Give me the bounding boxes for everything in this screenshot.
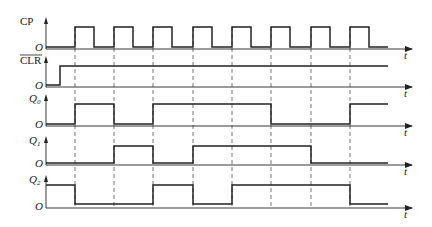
waveform (46, 146, 388, 163)
signal-label: Q2 (29, 173, 41, 187)
waveform (46, 27, 388, 47)
signal-q1: OQ1t (29, 134, 412, 177)
axis-arrow-icon (44, 175, 48, 182)
origin-label: O (35, 79, 43, 91)
clock-edge-guides (75, 27, 350, 208)
signal-label: CLR (20, 54, 42, 66)
time-axis-label: t (404, 208, 408, 220)
signal-cp: OCPt (20, 15, 412, 61)
signal-clr: OCLRt (20, 54, 412, 99)
origin-label: O (35, 157, 43, 169)
time-axis-label: t (404, 87, 408, 99)
signal-q0: OQ0t (29, 92, 412, 138)
origin-label: O (35, 200, 43, 212)
time-axis-label: t (404, 49, 408, 61)
waveform (46, 185, 388, 204)
time-axis-label: t (404, 126, 408, 138)
origin-label: O (35, 41, 43, 53)
signal-label: Q0 (29, 92, 41, 106)
signal-q2: OQ2t (29, 173, 412, 220)
axis-arrow-icon (44, 56, 48, 63)
axis-arrow-icon (44, 17, 48, 24)
axis-arrow-icon (44, 94, 48, 101)
waveform (46, 66, 388, 85)
signal-label: Q1 (29, 134, 40, 148)
timing-diagram: OCPtOCLRtOQ0tOQ1tOQ2t (0, 0, 432, 227)
time-axis-label: t (404, 165, 408, 177)
signal-traces: OCPtOCLRtOQ0tOQ1tOQ2t (20, 15, 412, 220)
origin-label: O (35, 118, 43, 130)
signal-label: CP (20, 15, 33, 27)
waveform (46, 104, 388, 124)
axis-arrow-icon (44, 136, 48, 143)
